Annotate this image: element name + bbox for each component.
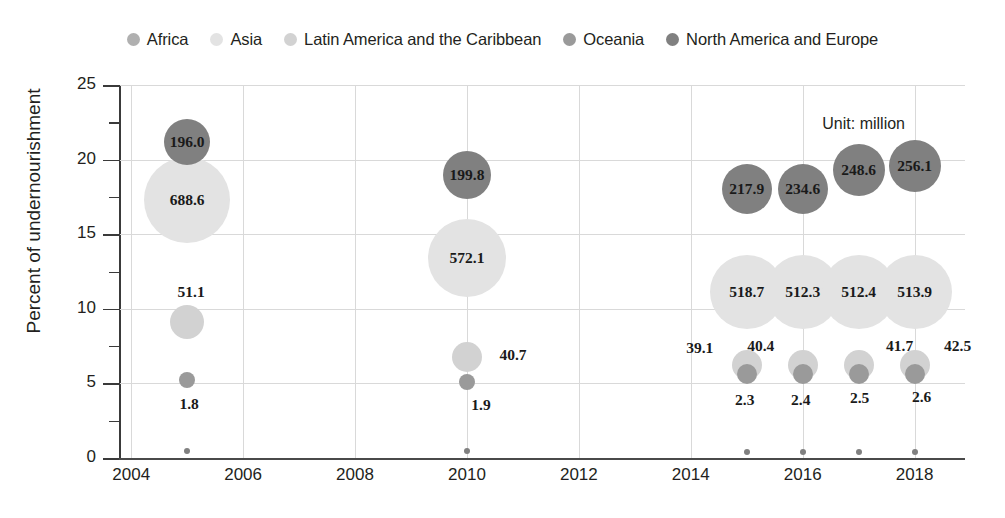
bubble-datapoint[interactable] <box>905 364 925 384</box>
y-axis-title: Percent of undernourishment <box>23 11 45 411</box>
x-tick-label: 2018 <box>880 465 950 485</box>
y-tick-major <box>103 234 119 236</box>
bubble-value-label: 513.9 <box>875 283 955 301</box>
bubble-value-label: 1.8 <box>149 395 229 413</box>
x-tick-label: 2016 <box>768 465 838 485</box>
x-tick-label: 2008 <box>320 465 390 485</box>
gridline-horizontal <box>120 85 965 86</box>
x-tick-label: 2010 <box>432 465 502 485</box>
gridline-vertical <box>131 85 132 458</box>
y-tick-minor <box>109 346 119 347</box>
plot-area: 688.6572.1518.7512.3512.4513.9248.6256.1… <box>120 85 965 458</box>
y-tick-major <box>103 85 119 87</box>
gridline-horizontal <box>120 234 965 235</box>
bubble-value-label: 40.4 <box>721 337 801 355</box>
bubble-datapoint[interactable] <box>737 364 757 384</box>
gridline-vertical <box>355 85 356 458</box>
bubble-value-label: 199.8 <box>427 166 507 184</box>
bubble-datapoint[interactable] <box>184 448 190 454</box>
bubble-datapoint[interactable] <box>179 372 195 388</box>
bubble-datapoint[interactable] <box>856 449 862 455</box>
bubble-datapoint[interactable] <box>170 305 204 339</box>
legend-label: Latin America and the Caribbean <box>304 30 541 49</box>
bubble-value-label: 51.1 <box>151 283 231 301</box>
legend-label: Asia <box>230 30 262 49</box>
legend-label: North America and Europe <box>686 30 878 49</box>
unit-annotation: Unit: million <box>822 115 905 133</box>
bubble-datapoint[interactable] <box>459 374 475 390</box>
y-tick-major <box>103 458 119 460</box>
y-tick-label: 20 <box>56 149 96 169</box>
legend-label: Africa <box>147 30 189 49</box>
legend-item-latam[interactable]: Latin America and the Caribbean <box>284 30 541 49</box>
legend-item-africa[interactable]: Africa <box>127 30 189 49</box>
bubble-datapoint[interactable] <box>912 449 918 455</box>
legend-swatch-oceania-icon <box>563 33 576 46</box>
bottom-caption-strip <box>0 496 1005 518</box>
legend-swatch-africa-icon <box>127 33 140 46</box>
y-tick-major <box>103 383 119 385</box>
bubble-datapoint[interactable] <box>800 449 806 455</box>
bubble-chart-figure: AfricaAsiaLatin America and the Caribbea… <box>0 0 1005 518</box>
y-tick-label: 15 <box>56 223 96 243</box>
y-tick-minor <box>109 197 119 198</box>
x-tick-label: 2004 <box>96 465 166 485</box>
bubble-value-label: 196.0 <box>147 133 227 151</box>
gridline-horizontal <box>120 383 965 384</box>
bubble-value-label: 2.6 <box>882 388 962 406</box>
legend-label: Oceania <box>583 30 644 49</box>
y-tick-label: 0 <box>56 447 96 467</box>
bubble-value-label: 40.7 <box>473 346 553 364</box>
bubble-datapoint[interactable] <box>464 448 470 454</box>
y-tick-major <box>103 309 119 311</box>
legend-item-name[interactable]: North America and Europe <box>666 30 878 49</box>
bubble-datapoint[interactable] <box>849 364 869 384</box>
y-tick-minor <box>109 421 119 422</box>
bubble-value-label: 256.1 <box>875 157 955 175</box>
chart-legend: AfricaAsiaLatin America and the Caribbea… <box>0 26 1005 52</box>
y-tick-label: 10 <box>56 298 96 318</box>
x-tick-label: 2006 <box>208 465 278 485</box>
bubble-value-label: 572.1 <box>427 249 507 267</box>
x-tick-label: 2014 <box>656 465 726 485</box>
y-tick-minor <box>109 272 119 273</box>
x-tick-label: 2012 <box>544 465 614 485</box>
legend-swatch-latam-icon <box>284 33 297 46</box>
legend-swatch-asia-icon <box>210 33 223 46</box>
bubble-value-label: 42.5 <box>918 337 998 355</box>
y-tick-label: 5 <box>56 372 96 392</box>
gridline-vertical <box>243 85 244 458</box>
bubble-value-label: 234.6 <box>763 180 843 198</box>
bubble-datapoint[interactable] <box>793 364 813 384</box>
gridline-vertical <box>579 85 580 458</box>
bubble-value-label: 1.9 <box>441 396 521 414</box>
y-tick-label: 25 <box>56 74 96 94</box>
bubble-datapoint[interactable] <box>744 449 750 455</box>
gridline-vertical <box>691 85 692 458</box>
y-tick-major <box>103 160 119 162</box>
legend-item-oceania[interactable]: Oceania <box>563 30 644 49</box>
legend-swatch-name-icon <box>666 33 679 46</box>
bubble-value-label: 688.6 <box>147 191 227 209</box>
y-tick-minor <box>109 122 119 123</box>
legend-item-asia[interactable]: Asia <box>210 30 262 49</box>
